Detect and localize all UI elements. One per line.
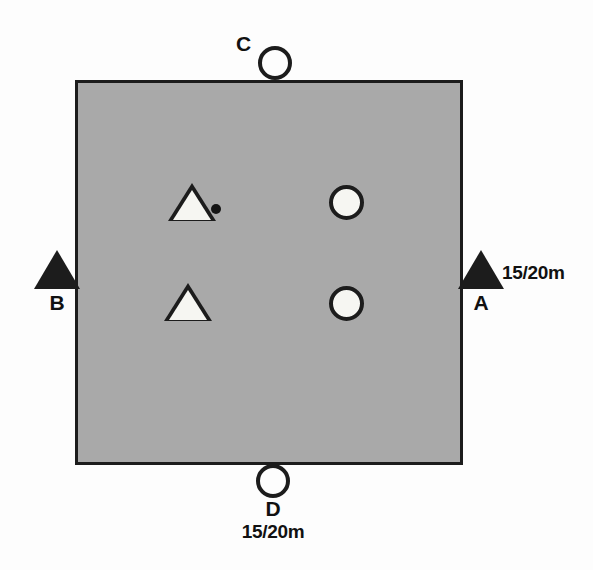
triangle-fill (169, 290, 207, 320)
interior-circle-lower-right (329, 286, 364, 321)
marker-a-label: A (474, 291, 489, 315)
interior-point-dot (211, 204, 221, 214)
marker-d-circle-icon (256, 464, 290, 498)
marker-d-label: D (266, 497, 281, 521)
triangle-fill (173, 190, 211, 220)
diagram-canvas: C B A 15/20m D 15/20m (0, 0, 593, 570)
marker-c-label: C (236, 32, 251, 56)
marker-b-label: B (50, 291, 65, 315)
field-plot-area (75, 80, 463, 465)
marker-a-distance-label: 15/20m (502, 262, 565, 284)
marker-c-circle-icon (258, 46, 292, 80)
triangle-outline (458, 250, 504, 289)
marker-d-distance-label: 15/20m (242, 521, 305, 543)
triangle-outline (34, 250, 80, 289)
interior-circle-upper-right (329, 185, 364, 220)
